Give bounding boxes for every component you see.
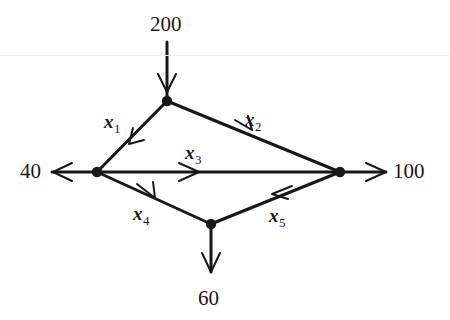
arc-label-x1: x1: [104, 112, 121, 135]
arc-label-x3-base: x: [185, 142, 195, 163]
arc-label-x5-base: x: [269, 205, 279, 226]
bottom-node: [206, 219, 216, 229]
arc-label-x1-base: x: [104, 111, 114, 132]
diagram-canvas: [0, 0, 450, 320]
arc-label-x2-subscript: 2: [255, 119, 262, 134]
arc-label-x5: x5: [269, 206, 286, 229]
arc-label-x3-subscript: 3: [195, 152, 202, 167]
left-node: [92, 167, 102, 177]
arc-label-x4-subscript: 4: [143, 213, 150, 228]
demand-60-label: 60: [198, 288, 219, 309]
arc-label-x1-subscript: 1: [114, 121, 121, 136]
arc-label-x4-base: x: [133, 203, 143, 224]
arc-label-x3: x3: [185, 143, 202, 166]
supply-200-label: 200: [150, 14, 182, 35]
network-flow-diagram: 200 40 100 60 x1 x2 x3 x4 x5: [0, 0, 450, 320]
arc-label-x5-subscript: 5: [279, 215, 286, 230]
right-node: [335, 167, 345, 177]
top-node: [162, 96, 172, 106]
arc-label-x4: x4: [133, 204, 150, 227]
arc-label-x2: x2: [245, 110, 262, 133]
demand-100-label: 100: [393, 161, 425, 182]
demand-40-label: 40: [20, 161, 41, 182]
arc-label-x2-base: x: [245, 109, 255, 130]
